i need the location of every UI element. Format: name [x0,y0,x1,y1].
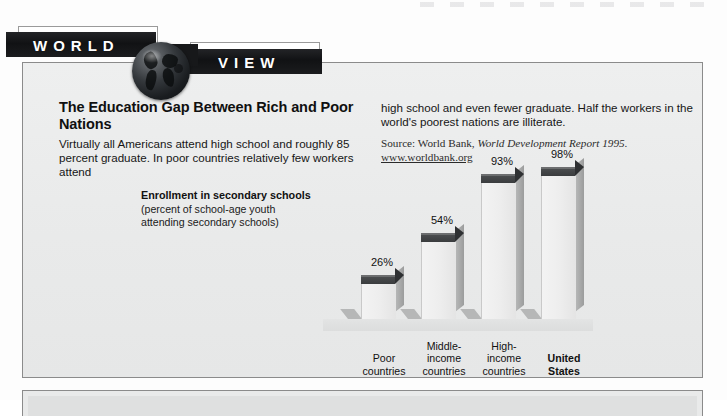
globe-landmass [174,64,183,73]
chart-bar-value: 54% [419,214,465,226]
globe-landmass [162,67,176,87]
chart-category-label-line: Middle- [427,340,462,352]
chart-bar-top [361,275,395,284]
chart-category-label-line: income [427,352,461,364]
next-feature-box [22,390,703,416]
banner-word-view: VIEW [218,54,280,71]
page-title: The Education Gap Between Rich and Poor … [59,99,359,133]
chart-bar-face [481,179,516,319]
chart-bar-value: 98% [539,148,585,160]
chart-bar-side [515,165,524,312]
chart-bar-face [421,238,456,319]
page-top-artifact [420,2,710,7]
chart-category-label-line: income [487,352,521,364]
chart-category-label-line: countries [363,365,406,377]
chart-bar-side [575,158,584,312]
chart-category-label-line: United [548,352,581,364]
chart-category-label-line: High- [491,340,516,352]
bar-chart: 26%Poorcountries54%Middle-incomecountrie… [323,173,593,373]
chart-category-label-line: Poor [373,352,395,364]
source-link[interactable]: www.worldbank.org [381,151,473,165]
chart-category-label: Poorcountries [353,352,415,377]
chart-bar-top [481,174,515,183]
article-body-right: high school and even fewer graduate. Hal… [381,101,701,129]
chart-bar-face [541,172,576,319]
chart-category-label: Middle-incomecountries [413,340,475,377]
chart-category-label: High-incomecountries [473,340,535,377]
chart-bar-top [541,167,575,176]
globe-icon [132,42,190,100]
chart-bar-shadow [340,309,362,319]
chart-bar-top [421,233,455,242]
chart-bar-shadow [460,309,482,319]
chart-category-label-line: States [548,365,580,377]
world-view-feature-box: The Education Gap Between Rich and Poor … [22,62,703,378]
chart-category-label: UnitedStates [533,352,595,377]
chart-category-label-line: countries [483,365,526,377]
globe-highlight [142,49,162,63]
chart-bar-top-sheen [421,233,455,235]
chart-ground-plane [323,319,593,331]
chart-bar-face [361,280,396,319]
chart-bar-top-sheen [481,174,515,176]
chart-subtitle: (percent of school-age youth attending s… [141,203,281,228]
chart-category-label-line: countries [423,365,466,377]
source-prefix: Source: World Bank, [381,137,477,149]
chart-bar-top-sheen [541,167,575,169]
chart-title: Enrollment in secondary schools [141,189,311,201]
chart-bar-value: 93% [479,155,525,167]
chart-bar-shadow [400,309,422,319]
globe-landmass [144,69,158,91]
chart-bar-top-sheen [361,275,395,277]
world-view-banner: WORLD VIEW [0,24,340,86]
chart-bar-value: 26% [359,256,405,268]
banner-word-world: WORLD [33,37,120,54]
chart-bar-shadow [520,309,542,319]
